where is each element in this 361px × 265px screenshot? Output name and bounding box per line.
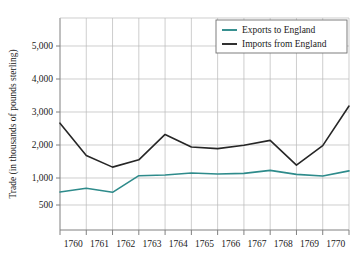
x-tick-label: 1769: [300, 239, 319, 249]
trade-line-chart: 5001,0002,0003,0004,0005,000 17601761176…: [0, 0, 361, 265]
x-tick-label: 1763: [142, 239, 161, 249]
x-tick-label: 1765: [195, 239, 214, 249]
y-tick-label: 1,000: [32, 173, 54, 183]
y-tick-label: 4,000: [32, 74, 54, 84]
x-tick-label: 1770: [326, 239, 345, 249]
y-axis-tick-labels: 5001,0002,0003,0004,0005,000: [32, 41, 60, 210]
y-tick-label: 5,000: [32, 41, 54, 51]
x-tick-label: 1760: [64, 239, 83, 249]
y-tick-label: 2,000: [32, 140, 54, 150]
chart-legend[interactable]: Exports to EnglandImports from England: [216, 20, 347, 53]
x-tick-label: 1762: [116, 239, 135, 249]
chart-figure: 5001,0002,0003,0004,0005,000 17601761176…: [0, 0, 361, 265]
y-tick-label: 500: [39, 200, 54, 210]
y-axis-title: Trade (in thousands of pounds sterling): [8, 49, 19, 198]
legend-label[interactable]: Imports from England: [242, 39, 327, 49]
x-tick-label: 1768: [274, 239, 293, 249]
x-tick-label: 1767: [248, 239, 267, 249]
x-tick-label: 1761: [90, 239, 109, 249]
x-tick-label: 1766: [221, 239, 240, 249]
y-axis-title-text: Trade (in thousands of pounds sterling): [8, 49, 19, 198]
y-tick-label: 3,000: [32, 107, 54, 117]
x-axis-tick-labels: 1760176117621763176417651766176717681769…: [60, 230, 349, 249]
legend-label[interactable]: Exports to England: [242, 25, 316, 35]
x-tick-label: 1764: [169, 239, 188, 249]
